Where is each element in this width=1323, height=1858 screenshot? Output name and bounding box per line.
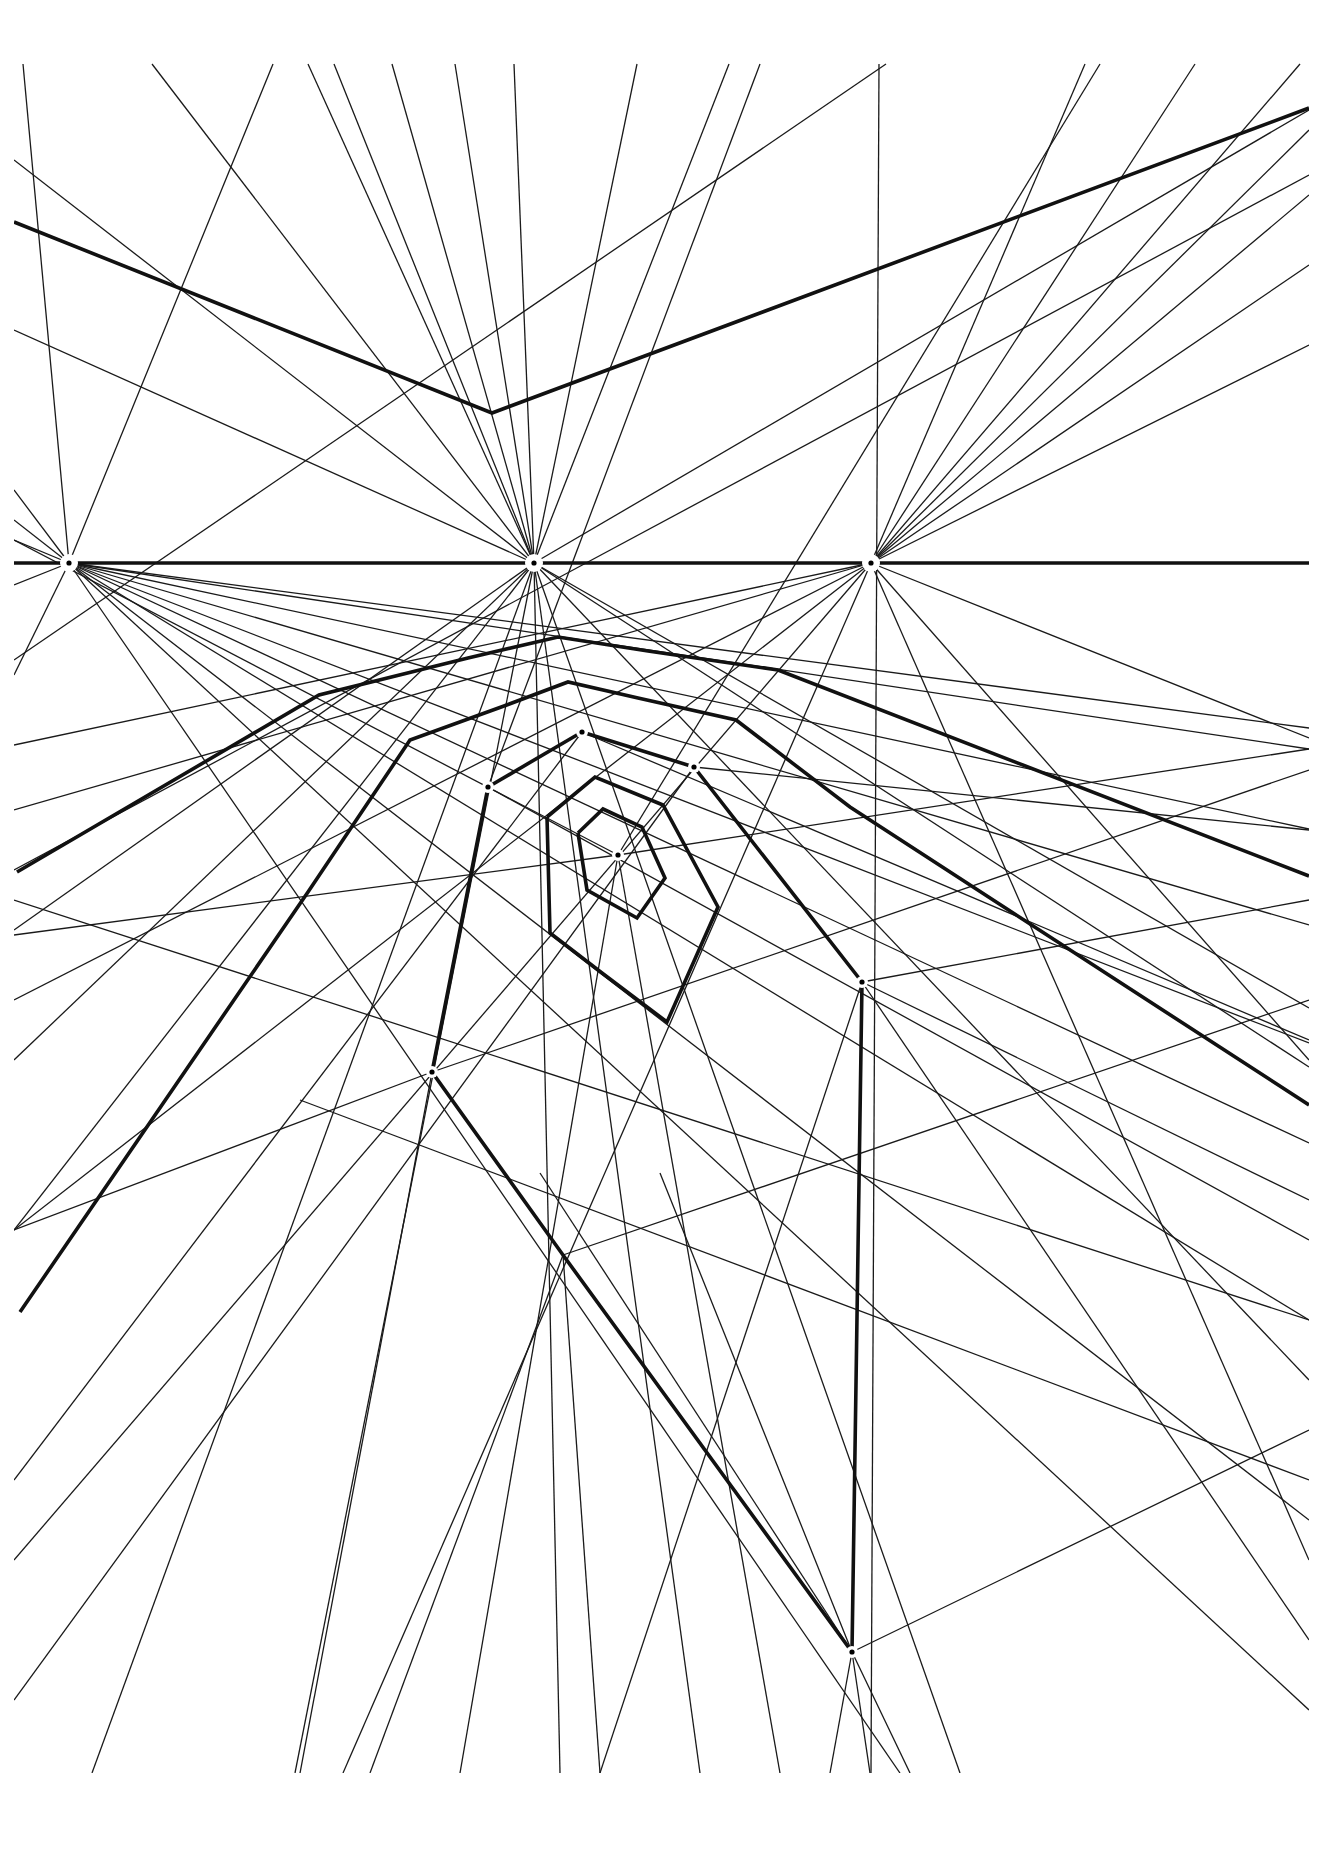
node-a bbox=[576, 726, 588, 738]
node-c bbox=[482, 781, 494, 793]
node-bottom bbox=[846, 1646, 858, 1658]
center-vanishing-point bbox=[525, 554, 543, 572]
node-d bbox=[856, 976, 868, 988]
left-vanishing-point bbox=[60, 554, 78, 572]
node-e bbox=[426, 1066, 438, 1078]
perspective-diagram bbox=[0, 0, 1323, 1858]
node-b bbox=[688, 761, 700, 773]
spiral-center-point bbox=[612, 849, 624, 861]
paper-background bbox=[0, 0, 1323, 1858]
right-vanishing-point bbox=[862, 554, 880, 572]
